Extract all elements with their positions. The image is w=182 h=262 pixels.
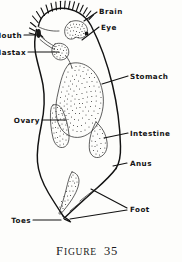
label-toes: Toes: [11, 216, 31, 225]
figure-caption: F IGURE 35: [56, 244, 118, 258]
leader-line-foot-lower: [70, 210, 127, 219]
label-stomach: Stomach: [130, 72, 168, 81]
intestine-organ: [89, 122, 107, 158]
stomach-organ: [56, 63, 103, 138]
mouth-region: [36, 29, 44, 39]
rotifer-diagram: Brain Eye Mouth Mastax Stomach Ovary Int…: [0, 0, 182, 262]
corona-base-line: [38, 27, 59, 32]
label-brain: Brain: [99, 7, 123, 16]
figure-container: Brain Eye Mouth Mastax Stomach Ovary Int…: [0, 0, 182, 262]
leader-line-stomach: [102, 76, 128, 84]
caption-figure-initial: F: [56, 244, 64, 258]
label-ovary: Ovary: [14, 116, 40, 125]
leader-line-anus: [113, 163, 127, 166]
foot-joint-1: [80, 188, 97, 201]
leader-line-intestine: [104, 133, 128, 138]
label-mouth: Mouth: [0, 31, 22, 40]
label-anus: Anus: [130, 159, 152, 168]
caption-figure-number: 35: [104, 244, 118, 258]
label-eye: Eye: [101, 23, 117, 32]
label-mastax: Mastax: [0, 48, 26, 57]
label-intestine: Intestine: [130, 129, 170, 138]
caption-figure-rest: IGURE: [64, 246, 97, 257]
brain-organ: [65, 21, 88, 39]
buccal-tube: [41, 37, 55, 47]
label-foot: Foot: [130, 205, 150, 214]
leader-line-foot-upper: [91, 189, 127, 208]
